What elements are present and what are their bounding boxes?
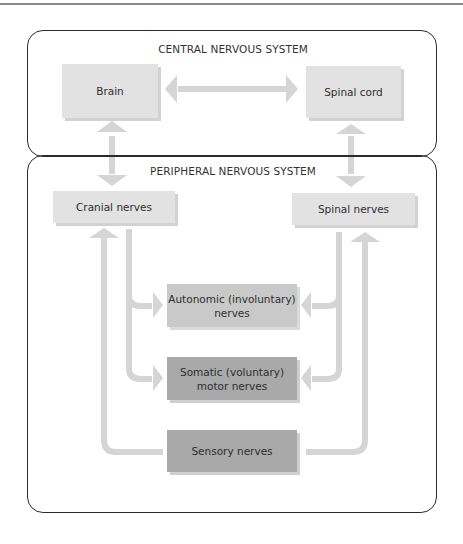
cranial-nerves-label: Cranial nerves — [76, 200, 152, 214]
cranial-nerves-node: Cranial nerves — [53, 191, 175, 223]
brain-label: Brain — [96, 84, 124, 98]
autonomic-label-line2: nerves — [214, 306, 250, 320]
somatic-motor-nerves-node: Somatic (voluntary) motor nerves — [167, 357, 297, 400]
brain-node: Brain — [62, 64, 158, 118]
spinal-cord-label: Spinal cord — [324, 85, 383, 99]
spinal-nerves-node: Spinal nerves — [292, 193, 415, 225]
somatic-label-line1: Somatic (voluntary) — [180, 365, 284, 379]
spinal-cord-node: Spinal cord — [306, 66, 401, 118]
central-nervous-system-title: CENTRAL NERVOUS SYSTEM — [158, 43, 308, 55]
autonomic-label-line1: Autonomic (involuntary) — [168, 292, 295, 306]
autonomic-nerves-node: Autonomic (involuntary) nerves — [167, 284, 297, 327]
sensory-nerves-label: Sensory nerves — [191, 444, 272, 458]
spinal-nerves-label: Spinal nerves — [318, 202, 389, 216]
sensory-nerves-node: Sensory nerves — [167, 430, 297, 472]
peripheral-nervous-system-title: PERIPHERAL NERVOUS SYSTEM — [150, 165, 316, 177]
somatic-label-line2: motor nerves — [197, 379, 267, 393]
